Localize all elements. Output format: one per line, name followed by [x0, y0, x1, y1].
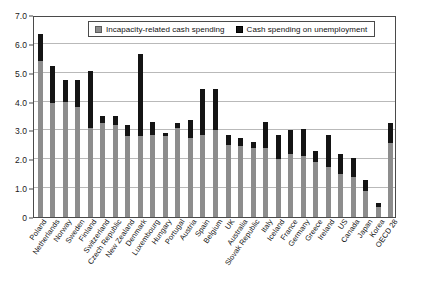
- y-axis: 01.02.03.04.05.06.07.0: [0, 16, 33, 218]
- bar-segment-unemployment: [388, 123, 393, 143]
- bar-segment-unemployment: [75, 80, 80, 107]
- bar-segment-unemployment: [63, 80, 68, 102]
- bar-segment-unemployment: [188, 120, 193, 137]
- y-tick-label: 7.0: [15, 11, 27, 21]
- bar-segment-incapacity: [338, 174, 343, 217]
- legend-entry-incapacity: Incapacity-related cash spending: [95, 25, 225, 34]
- bar-segment-incapacity: [188, 138, 193, 217]
- bar-segment-unemployment: [376, 203, 381, 207]
- bar-segment-unemployment: [326, 135, 331, 167]
- bar-segment-unemployment: [163, 133, 168, 136]
- y-tick-label: 6.0: [15, 40, 27, 50]
- bar-segment-unemployment: [88, 71, 93, 127]
- chart-legend: Incapacity-related cash spending Cash sp…: [88, 21, 375, 37]
- legend-entry-unemployment: Cash spending on unemployment: [236, 25, 368, 34]
- y-tick-label: 5.0: [15, 69, 27, 79]
- bar-segment-incapacity: [263, 148, 268, 217]
- bar-segment-unemployment: [276, 135, 281, 160]
- bar-segment-unemployment: [238, 138, 243, 147]
- legend-label-incapacity: Incapacity-related cash spending: [106, 25, 225, 34]
- bar-segment-unemployment: [288, 130, 293, 153]
- bar-segment-incapacity: [251, 148, 256, 217]
- bar-segment-incapacity: [288, 154, 293, 217]
- unemployment-swatch-icon: [236, 26, 243, 33]
- bar-segment-unemployment: [113, 116, 118, 125]
- bar-segment-unemployment: [38, 34, 43, 61]
- bar-segment-unemployment: [301, 129, 306, 156]
- bar-segment-unemployment: [150, 122, 155, 135]
- bar-segment-incapacity: [388, 143, 393, 217]
- bar-segment-incapacity: [50, 103, 55, 217]
- bars-layer: [34, 17, 395, 217]
- bar-segment-unemployment: [338, 154, 343, 174]
- y-tick-label: 4.0: [15, 98, 27, 108]
- legend-label-unemployment: Cash spending on unemployment: [247, 25, 368, 34]
- bar-segment-incapacity: [313, 162, 318, 217]
- bar-segment-incapacity: [150, 135, 155, 217]
- bar-segment-incapacity: [363, 191, 368, 217]
- bar-segment-unemployment: [213, 89, 218, 131]
- bar-segment-incapacity: [301, 156, 306, 217]
- bar-segment-incapacity: [351, 177, 356, 217]
- bar-segment-unemployment: [351, 158, 356, 177]
- bar-segment-unemployment: [175, 123, 180, 127]
- bar-segment-unemployment: [138, 54, 143, 136]
- chart-figure: 01.02.03.04.05.06.07.0 Incapacity-relate…: [0, 0, 431, 293]
- incapacity-swatch-icon: [95, 26, 102, 33]
- bar-segment-incapacity: [125, 136, 130, 217]
- bar-segment-incapacity: [113, 125, 118, 217]
- bar-segment-incapacity: [88, 128, 93, 217]
- bar-segment-unemployment: [263, 122, 268, 148]
- y-tick-label: 2.0: [15, 155, 27, 165]
- x-axis: PolandNetherlandsNorwaySwedenFinlandSwit…: [33, 218, 396, 293]
- bar-segment-incapacity: [326, 167, 331, 218]
- bar-segment-incapacity: [163, 136, 168, 217]
- bar-segment-unemployment: [363, 180, 368, 192]
- bar-segment-unemployment: [313, 151, 318, 163]
- bar-segment-unemployment: [125, 125, 130, 137]
- bar-segment-incapacity: [138, 136, 143, 217]
- bar-segment-incapacity: [376, 207, 381, 217]
- bar-segment-incapacity: [226, 145, 231, 217]
- bar-segment-unemployment: [226, 135, 231, 145]
- bar-segment-incapacity: [63, 102, 68, 217]
- bar-segment-incapacity: [175, 128, 180, 217]
- bar-segment-incapacity: [75, 107, 80, 217]
- bar-segment-unemployment: [251, 142, 256, 148]
- bar-segment-incapacity: [100, 123, 105, 217]
- bar-segment-incapacity: [200, 135, 205, 217]
- y-tick-label: 0: [22, 213, 27, 223]
- bar-segment-incapacity: [38, 61, 43, 217]
- plot-area: [33, 16, 396, 218]
- bar-segment-unemployment: [50, 66, 55, 104]
- bar-segment-incapacity: [276, 159, 281, 217]
- y-tick-label: 1.0: [15, 184, 27, 194]
- y-tick-label: 3.0: [15, 126, 27, 136]
- bar-segment-unemployment: [100, 116, 105, 123]
- bar-segment-unemployment: [200, 89, 205, 135]
- bar-segment-incapacity: [238, 146, 243, 217]
- bar-segment-incapacity: [213, 130, 218, 217]
